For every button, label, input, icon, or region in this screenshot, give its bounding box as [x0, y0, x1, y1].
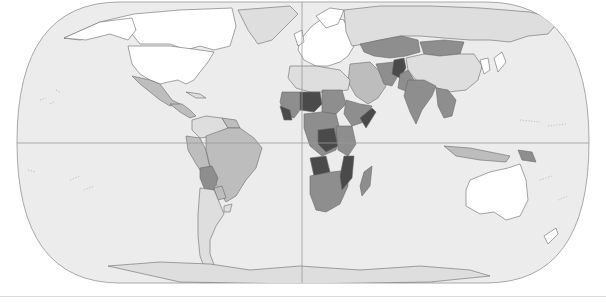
world-choropleth-map [0, 0, 606, 302]
region-mongolia [420, 40, 464, 56]
map-canvas [0, 0, 606, 302]
bottom-divider [0, 296, 606, 297]
